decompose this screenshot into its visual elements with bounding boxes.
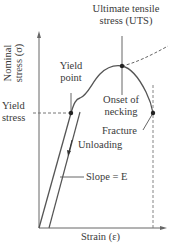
yield-stress-label-line2: stress	[2, 112, 25, 124]
fracture-point-marker	[151, 111, 155, 115]
necking-label-line1: Onset of	[94, 94, 148, 106]
y-axis-label-line2: stress (σ)	[13, 33, 24, 93]
yield-point-label-line1: Yield	[54, 60, 88, 72]
yield-point-label: Yield point	[54, 60, 88, 84]
uts-label-line2: stress (UTS)	[84, 15, 168, 27]
fracture-label: Fracture	[102, 125, 137, 137]
x-axis-label: Strain (ε)	[81, 231, 120, 243]
unloading-line	[49, 112, 80, 228]
unloading-arrow-shaft	[69, 140, 72, 152]
x-axis-arrow-icon	[160, 226, 167, 230]
unloading-label: Unloading	[78, 139, 122, 151]
uts-label: Ultimate tensile stress (UTS)	[84, 3, 168, 27]
uts-label-line1: Ultimate tensile	[84, 3, 168, 15]
y-axis-arrow-icon	[37, 31, 41, 38]
necking-label: Onset of necking	[94, 94, 148, 118]
necking-label-line2: necking	[94, 106, 148, 118]
true-stress-dashed-curve	[122, 46, 168, 66]
yield-point-label-line2: point	[54, 72, 88, 84]
yield-point-marker	[69, 111, 73, 115]
slope-label: Slope = E	[86, 171, 128, 183]
y-axis-label: Nominal stress (σ)	[2, 33, 24, 93]
elastic-line	[39, 113, 71, 228]
uts-point-marker	[120, 64, 124, 68]
yield-stress-label-line1: Yield	[2, 100, 25, 112]
y-axis-label-line1: Nominal	[2, 33, 13, 93]
yield-stress-label: Yield stress	[2, 100, 25, 124]
stress-strain-diagram	[0, 0, 174, 248]
